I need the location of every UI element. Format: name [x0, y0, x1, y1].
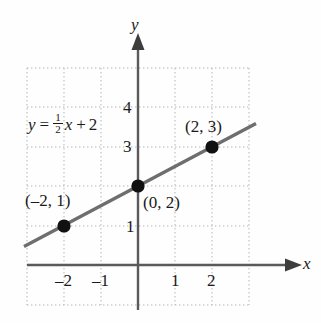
y-tick-label-4: 4 — [123, 99, 132, 116]
y-tick-label-3: 3 — [123, 138, 132, 155]
x-tick-label-neg1: –1 — [92, 272, 109, 289]
x-tick-label-neg2: –2 — [55, 272, 72, 289]
x-tick-label-1: 1 — [171, 272, 180, 289]
data-point-left — [57, 219, 70, 232]
equation-lhs: y — [27, 115, 37, 135]
y-axis-label: y — [131, 16, 139, 33]
data-point-middle — [131, 179, 144, 192]
equation-variable: x — [64, 115, 74, 135]
y-tick-label-1: 1 — [126, 218, 135, 235]
coordinate-plane-svg — [0, 0, 321, 323]
fraction-numerator: 1 — [53, 112, 63, 123]
figure-background — [0, 0, 321, 323]
graph-figure: x y –2 –1 1 2 4 3 1 (–2, 1) (0, 2) (2, 3… — [0, 0, 321, 323]
point-label-0-2: (0, 2) — [143, 194, 180, 211]
equation-fraction-one-half: 1 2 — [53, 112, 63, 135]
data-point-right — [205, 140, 218, 153]
point-label-2-3: (2, 3) — [185, 118, 222, 135]
equation-constant: 2 — [89, 115, 98, 135]
equation-plus: + — [73, 115, 89, 135]
point-label-neg2-1: (–2, 1) — [25, 192, 70, 209]
fraction-denominator: 2 — [53, 124, 63, 135]
x-axis-label: x — [303, 255, 311, 272]
equation-equals: = — [37, 115, 53, 135]
equation-annotation: y = 1 2 x + 2 — [27, 113, 97, 136]
x-tick-label-2: 2 — [207, 272, 216, 289]
